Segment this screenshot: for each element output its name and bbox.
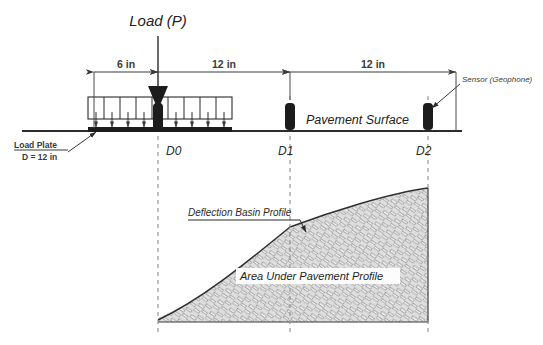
diagram-canvas: 6 in 12 in 12 in Load (P) Pavement Surfa… (0, 0, 543, 345)
load-title: Load (P) (129, 12, 187, 29)
dimension-12in-b: 12 in (290, 58, 456, 72)
sensor-label: Sensor (Geophone) (462, 75, 533, 84)
dimension-6in-label: 6 in (117, 58, 135, 70)
dimension-12in-a-label: 12 in (212, 58, 236, 70)
sensor-label-d0: D0 (166, 144, 182, 158)
fwd-deflection-diagram: 6 in 12 in 12 in Load (P) Pavement Surfa… (0, 0, 543, 345)
load-plate-label-line1: Load Plate (14, 140, 57, 150)
geophone-d2 (423, 103, 433, 130)
area-under-pavement-profile-label: Area Under Pavement Profile (239, 270, 383, 282)
pavement-surface-line (22, 130, 462, 132)
deflection-basin-label: Deflection Basin Profile (188, 207, 292, 218)
geophone-d1 (285, 103, 295, 130)
area-label-group: Area Under Pavement Profile (236, 268, 400, 284)
sensor-callout: Sensor (Geophone) (432, 75, 533, 108)
pavement-surface-label: Pavement Surface (306, 113, 409, 127)
sensor-label-d1: D1 (278, 144, 293, 158)
dimension-12in-b-label: 12 in (361, 58, 385, 70)
geophone-d0 (153, 103, 163, 130)
dimension-12in-a: 12 in (158, 58, 290, 72)
sensor-label-d2: D2 (416, 144, 432, 158)
load-plate-callout: Load Plate D = 12 in (14, 132, 96, 162)
load-plate-label-line2: D = 12 in (22, 152, 57, 162)
dimension-6in: 6 in (94, 58, 158, 72)
